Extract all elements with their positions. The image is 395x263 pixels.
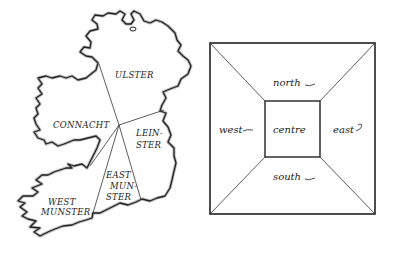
- compass-square: north west centre east south: [210, 43, 375, 214]
- lough-icon: [130, 27, 136, 31]
- west-flourish: [243, 130, 253, 131]
- label-south: south: [273, 171, 301, 182]
- label-east-munster-2: MUN-: [109, 181, 137, 191]
- north-flourish: [305, 84, 315, 86]
- east-flourish: [356, 124, 362, 131]
- label-connacht: CONNACHT: [53, 120, 111, 130]
- label-east-munster-1: EAST: [105, 170, 132, 180]
- label-ulster: ULSTER: [115, 70, 154, 80]
- label-north: north: [273, 77, 301, 88]
- label-west: west: [219, 124, 244, 135]
- label-west-munster-1: WEST: [48, 197, 77, 207]
- label-east-munster-3: STER: [106, 192, 132, 202]
- label-centre: centre: [273, 124, 306, 135]
- south-flourish: [305, 178, 315, 180]
- label-east: east: [333, 124, 355, 135]
- label-leinster-2: STER: [136, 140, 162, 150]
- label-leinster-1: LEIN-: [135, 128, 163, 138]
- ireland-map: ULSTER CONNACHT LEIN- STER EAST MUN- STE…: [18, 11, 191, 236]
- label-west-munster-2: MUNSTER: [40, 207, 91, 217]
- figure: ULSTER CONNACHT LEIN- STER EAST MUN- STE…: [0, 0, 395, 263]
